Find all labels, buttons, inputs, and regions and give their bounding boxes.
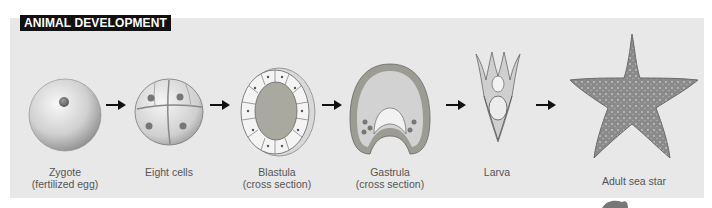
stage-label-gastrula: Gastrula (cross section) <box>330 166 450 190</box>
arrow-icon <box>106 104 124 106</box>
gastrula-illustration <box>348 62 432 158</box>
label-line: (fertilized egg) <box>5 178 125 190</box>
label-line: Blastula <box>217 166 337 178</box>
label-line: Adult sea star <box>574 175 694 187</box>
arrow-icon <box>210 104 228 106</box>
larva-illustration <box>472 50 524 144</box>
sea-star-illustration <box>568 32 700 160</box>
blastula-illustration <box>237 66 317 158</box>
zygote-illustration <box>28 78 102 152</box>
eight-cells-illustration <box>133 76 205 146</box>
arrow-icon <box>322 104 340 106</box>
arrow-icon <box>446 104 464 106</box>
stage-label-larva: Larva <box>437 166 557 178</box>
stage-label-blastula: Blastula (cross section) <box>217 166 337 190</box>
stage-label-zygote: Zygote (fertilized egg) <box>5 166 125 190</box>
stage-label-adult: Adult sea star <box>574 175 694 187</box>
label-line: Gastrula <box>330 166 450 178</box>
label-line: (cross section) <box>330 178 450 190</box>
label-line: Larva <box>437 166 557 178</box>
label-line: (cross section) <box>217 178 337 190</box>
label-line: Zygote <box>5 166 125 178</box>
stage-label-eight-cells: Eight cells <box>109 166 229 178</box>
label-line: Eight cells <box>109 166 229 178</box>
arrow-icon <box>536 104 554 106</box>
decorative-fragment-icon <box>600 199 630 208</box>
diagram-title: ANIMAL DEVELOPMENT <box>20 15 171 31</box>
